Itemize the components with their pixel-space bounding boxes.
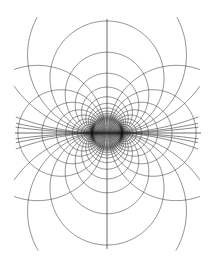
- bipolar-coordinate-diagram: [0, 0, 213, 265]
- figure-container: [0, 0, 213, 265]
- pole-marker-right: [121, 132, 123, 134]
- pole-marker-left: [91, 132, 93, 134]
